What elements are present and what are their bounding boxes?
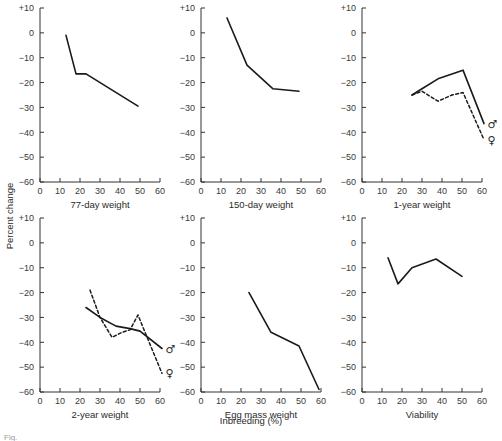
x-tick-label: 60: [316, 186, 326, 196]
figure-background: [0, 0, 502, 441]
y-tick-label: −10: [341, 53, 356, 63]
y-tick-label: −20: [341, 78, 356, 88]
panel-title: Viability: [406, 409, 439, 420]
venus-symbol: ♀: [166, 367, 174, 380]
mars-symbol: ♂: [488, 118, 498, 131]
x-tick-label: 60: [477, 186, 487, 196]
y-tick-label: −20: [19, 288, 34, 298]
x-tick-label: 50: [135, 186, 145, 196]
y-tick-label: +10: [19, 213, 34, 223]
y-tick-label: −30: [180, 313, 195, 323]
x-tick-label: 0: [198, 396, 203, 406]
x-tick-label: 60: [155, 396, 165, 406]
x-tick-label: 10: [377, 396, 387, 406]
x-tick-label: 30: [95, 396, 105, 406]
y-tick-label: −30: [180, 103, 195, 113]
x-tick-label: 60: [155, 186, 165, 196]
y-tick-label: −30: [341, 103, 356, 113]
inbreeding-depression-figure: 0102030405060+100−10−20−30−40−50−6077-da…: [0, 0, 502, 441]
x-tick-label: 0: [37, 186, 42, 196]
y-tick-label: −10: [19, 53, 34, 63]
panel-title: 150-day weight: [229, 199, 294, 210]
y-tick-label: −50: [180, 152, 195, 162]
x-tick-label: 60: [316, 396, 326, 406]
x-tick-label: 10: [55, 396, 65, 406]
x-tick-label: 30: [256, 396, 266, 406]
y-tick-label: −60: [180, 387, 195, 397]
y-tick-label: −50: [19, 152, 34, 162]
mars-symbol: ♂: [166, 343, 176, 356]
y-tick-label: −10: [180, 53, 195, 63]
x-tick-label: 30: [256, 186, 266, 196]
y-tick-label: 0: [29, 238, 34, 248]
y-tick-label: −50: [180, 362, 195, 372]
venus-symbol: ♀: [488, 134, 496, 147]
y-tick-label: −10: [341, 263, 356, 273]
x-tick-label: 10: [216, 396, 226, 406]
y-tick-label: −30: [341, 313, 356, 323]
y-tick-label: −20: [19, 78, 34, 88]
x-tick-label: 50: [296, 396, 306, 406]
x-tick-label: 50: [135, 396, 145, 406]
y-tick-label: −40: [341, 338, 356, 348]
y-tick-label: −20: [180, 288, 195, 298]
y-tick-label: −10: [19, 263, 34, 273]
x-tick-label: 0: [359, 396, 364, 406]
panel-title: 2-year weight: [71, 409, 128, 420]
y-tick-label: +10: [180, 213, 195, 223]
x-tick-label: 10: [55, 186, 65, 196]
y-tick-label: 0: [29, 28, 34, 38]
y-tick-label: +10: [180, 3, 195, 13]
y-tick-label: −60: [341, 387, 356, 397]
x-tick-label: 20: [397, 396, 407, 406]
x-tick-label: 50: [296, 186, 306, 196]
y-tick-label: +10: [341, 213, 356, 223]
y-tick-label: −20: [341, 288, 356, 298]
x-tick-label: 20: [75, 186, 85, 196]
y-tick-label: −40: [341, 128, 356, 138]
y-tick-label: −50: [341, 152, 356, 162]
x-tick-label: 0: [37, 396, 42, 406]
x-tick-label: 20: [236, 396, 246, 406]
figure-caption-fragment: Fig.: [4, 433, 17, 441]
x-tick-label: 0: [198, 186, 203, 196]
x-tick-label: 40: [276, 396, 286, 406]
x-tick-label: 30: [95, 186, 105, 196]
x-tick-label: 40: [437, 396, 447, 406]
x-tick-label: 50: [457, 396, 467, 406]
y-tick-label: −40: [19, 338, 34, 348]
x-tick-label: 40: [276, 186, 286, 196]
y-axis-label: Percent change: [4, 183, 15, 250]
y-tick-label: −60: [19, 177, 34, 187]
x-tick-label: 30: [417, 396, 427, 406]
y-tick-label: −60: [19, 387, 34, 397]
x-tick-label: 40: [437, 186, 447, 196]
y-tick-label: +10: [19, 3, 34, 13]
y-tick-label: −40: [180, 338, 195, 348]
x-axis-label: Inbreeding (%): [220, 415, 282, 426]
x-tick-label: 10: [377, 186, 387, 196]
y-tick-label: −60: [180, 177, 195, 187]
y-tick-label: 0: [351, 238, 356, 248]
y-tick-label: −30: [19, 313, 34, 323]
y-tick-label: −30: [19, 103, 34, 113]
x-tick-label: 20: [397, 186, 407, 196]
y-tick-label: 0: [351, 28, 356, 38]
x-tick-label: 60: [477, 396, 487, 406]
y-tick-label: 0: [190, 238, 195, 248]
panel-title: 1-year weight: [393, 199, 450, 210]
y-tick-label: −40: [180, 128, 195, 138]
y-tick-label: −10: [180, 263, 195, 273]
y-tick-label: −20: [180, 78, 195, 88]
y-tick-label: −50: [19, 362, 34, 372]
y-tick-label: +10: [341, 3, 356, 13]
panel-title: 77-day weight: [70, 199, 130, 210]
x-tick-label: 40: [115, 186, 125, 196]
x-tick-label: 40: [115, 396, 125, 406]
x-tick-label: 50: [457, 186, 467, 196]
x-tick-label: 10: [216, 186, 226, 196]
x-tick-label: 20: [236, 186, 246, 196]
x-tick-label: 0: [359, 186, 364, 196]
x-tick-label: 20: [75, 396, 85, 406]
x-tick-label: 30: [417, 186, 427, 196]
